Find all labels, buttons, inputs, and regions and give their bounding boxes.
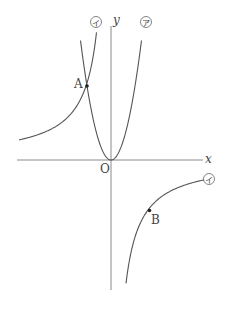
hyperbola-branch-q2 — [19, 32, 97, 139]
point-b-label: B — [151, 213, 160, 227]
point-b-marker — [148, 209, 152, 213]
y-axis-label: y — [112, 13, 120, 27]
hyperbola-label-right: イ — [204, 174, 215, 185]
hyperbola-branch-q4 — [126, 180, 204, 283]
parabola-label: ア — [141, 17, 152, 28]
svg-text:イ: イ — [92, 19, 100, 28]
svg-text:ア: ア — [142, 19, 150, 28]
function-graph: x y O ア イ イ A B — [0, 0, 226, 309]
x-axis-label: x — [205, 152, 212, 166]
point-a-marker — [85, 84, 89, 88]
svg-text:イ: イ — [205, 176, 213, 185]
hyperbola-label-top: イ — [91, 17, 102, 28]
point-a-label: A — [73, 77, 83, 91]
origin-label: O — [100, 162, 110, 176]
